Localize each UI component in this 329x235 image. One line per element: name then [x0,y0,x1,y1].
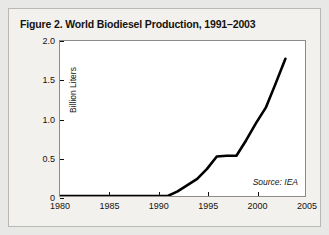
y-tick-label: 1.0 [42,115,55,125]
y-tick-label: 0.5 [42,154,55,164]
y-tick-label: 1.5 [42,75,55,85]
x-tick-mark [159,192,160,196]
x-tick-label: 1985 [99,201,119,211]
x-tick-mark [208,192,209,196]
figure-title: Figure 2. World Biodiesel Production, 19… [20,18,310,30]
y-tick-mark [60,198,64,199]
x-tick-mark [109,192,110,196]
y-tick-mark [60,80,64,81]
y-tick-mark [60,120,64,121]
source-annotation: Source: IEA [253,177,298,187]
y-tick-mark [60,41,64,42]
y-tick-mark [60,159,64,160]
x-tick-label: 1995 [198,201,218,211]
x-tick-label: 2000 [248,201,268,211]
x-tick-label: 1990 [149,201,169,211]
chart-line-plot [60,41,305,196]
x-tick-label: 1980 [50,201,70,211]
x-tick-label: 2005 [297,201,317,211]
x-tick-mark [258,192,259,196]
y-axis-title: Billion Liters [68,55,78,125]
data-series-line [60,59,285,196]
figure-card: Figure 2. World Biodiesel Production, 19… [8,8,321,227]
y-tick-label: 2.0 [42,36,55,46]
plot-area: Billion Liters 00.51.01.52.0 19801985199… [59,40,306,197]
